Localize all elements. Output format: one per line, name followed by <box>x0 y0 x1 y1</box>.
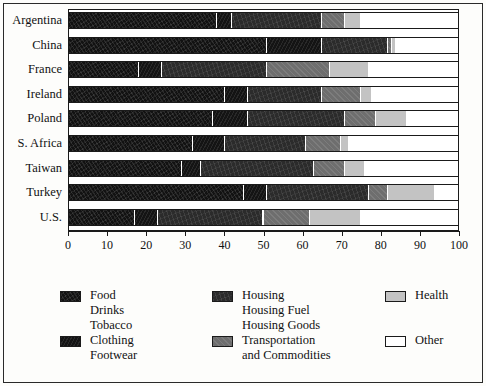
legend-swatch-food <box>60 291 81 302</box>
y-axis-label-turkey: Turkey <box>26 184 62 201</box>
bar-segment-clothing <box>244 185 267 200</box>
legend-item-housing[interactable]: HousingHousing FuelHousing Goods <box>212 288 320 333</box>
bar-segment-housing <box>158 210 263 225</box>
legend-swatch-clothing <box>60 336 81 347</box>
legend-label-line: Health <box>415 288 448 303</box>
bar-segment-transportation <box>314 161 345 176</box>
bar-segment-food <box>69 38 267 53</box>
legend-label-line: Housing Goods <box>242 318 320 333</box>
bar-segment-housing <box>225 136 307 151</box>
bar-segment-food <box>69 111 213 126</box>
bar-segment-food <box>69 161 182 176</box>
bar-segment-clothing <box>135 210 158 225</box>
bar-segment-food <box>69 62 139 77</box>
legend-item-health[interactable]: Health <box>385 288 448 303</box>
y-axis-label-ireland: Ireland <box>27 86 62 103</box>
bar-segment-clothing <box>225 87 248 102</box>
legend-item-other[interactable]: Other <box>385 333 443 348</box>
bar-row[interactable] <box>68 184 459 201</box>
bar-segment-health <box>388 185 435 200</box>
legend-label-line: Footwear <box>90 348 137 363</box>
bar-segment-other <box>372 87 458 102</box>
x-tick <box>107 231 108 236</box>
x-tick-label: 20 <box>140 238 152 253</box>
x-tick <box>146 231 147 236</box>
bar-segment-health <box>345 13 361 28</box>
legend-label-line: Housing Fuel <box>242 303 320 318</box>
bar-segment-clothing <box>139 62 162 77</box>
bar-segment-other <box>361 210 458 225</box>
bar-segment-housing <box>232 13 321 28</box>
bar-row[interactable] <box>68 160 459 177</box>
y-axis-label-taiwan: Taiwan <box>25 160 62 177</box>
bar-segment-transportation <box>322 87 361 102</box>
bar-segment-clothing <box>267 38 321 53</box>
bar-segment-other <box>369 62 458 77</box>
x-tick-label: 90 <box>414 238 426 253</box>
x-tick <box>224 231 225 236</box>
bar-track-taiwan <box>68 160 459 177</box>
bar-segment-health <box>310 210 361 225</box>
bar-row[interactable] <box>68 37 459 54</box>
bar-segment-other <box>361 13 458 28</box>
bar-row[interactable] <box>68 110 459 127</box>
legend-label-line: Other <box>415 333 443 348</box>
bar-segment-housing <box>322 38 388 53</box>
bar-segment-food <box>69 185 244 200</box>
bar-segment-health <box>330 62 369 77</box>
bar-segment-transportation <box>264 210 311 225</box>
y-axis-label-s-africa: S. Africa <box>18 135 62 152</box>
bar-segment-transportation <box>345 111 376 126</box>
legend-swatch-housing <box>212 291 233 302</box>
legend-swatch-health <box>385 291 406 302</box>
x-tick <box>68 231 69 236</box>
plot-area <box>68 9 459 231</box>
x-tick <box>264 231 265 236</box>
bar-segment-transportation <box>369 185 388 200</box>
bar-row[interactable] <box>68 86 459 103</box>
bar-segment-transportation <box>267 62 329 77</box>
legend-label-line: and Commodities <box>242 348 331 363</box>
legend-item-transportation[interactable]: Transportationand Commodities <box>212 333 331 363</box>
bar-track-france <box>68 61 459 78</box>
legend-swatch-other <box>385 336 406 347</box>
y-axis-label-argentina: Argentina <box>12 12 62 29</box>
bar-track-ireland <box>68 86 459 103</box>
bar-segment-food <box>69 136 193 151</box>
bar-track-turkey <box>68 184 459 201</box>
bar-segment-housing <box>248 87 322 102</box>
x-tick <box>342 231 343 236</box>
legend-item-food[interactable]: FoodDrinksTobacco <box>60 288 132 333</box>
x-tick <box>459 231 460 236</box>
legend-label-line: Clothing <box>90 333 137 348</box>
legend-label-line: Tobacco <box>90 318 132 333</box>
bar-segment-other <box>396 38 458 53</box>
y-axis-label-france: France <box>28 61 62 78</box>
y-axis-label-u-s: U.S. <box>40 209 62 226</box>
bar-row[interactable] <box>68 12 459 29</box>
bar-row[interactable] <box>68 135 459 152</box>
x-axis: 0102030405060708090100 <box>68 231 459 259</box>
bar-segment-transportation <box>306 136 341 151</box>
bar-segment-clothing <box>193 136 224 151</box>
bar-segment-other <box>365 161 458 176</box>
bar-segment-health <box>376 111 407 126</box>
bar-segment-other <box>435 185 458 200</box>
bar-row[interactable] <box>68 209 459 226</box>
legend-label-clothing: ClothingFootwear <box>90 333 137 363</box>
legend-label-food: FoodDrinksTobacco <box>90 288 132 333</box>
bar-segment-other <box>407 111 458 126</box>
legend-label-line: Transportation <box>242 333 331 348</box>
x-tick-label: 30 <box>179 238 191 253</box>
bar-segment-housing <box>162 62 267 77</box>
legend-label-line: Food <box>90 288 132 303</box>
legend-swatch-transportation <box>212 336 233 347</box>
legend-label-other: Other <box>415 333 443 348</box>
legend-label-housing: HousingHousing FuelHousing Goods <box>242 288 320 333</box>
bar-segment-clothing <box>213 111 248 126</box>
legend-label-transportation: Transportationand Commodities <box>242 333 331 363</box>
bar-segment-health <box>341 136 349 151</box>
bar-row[interactable] <box>68 61 459 78</box>
bar-track-china <box>68 37 459 54</box>
legend-item-clothing[interactable]: ClothingFootwear <box>60 333 137 363</box>
